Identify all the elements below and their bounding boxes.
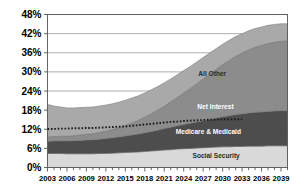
y-tick-label: 18% (21, 105, 41, 116)
stacked-area-chart: 0%6%12%18%24%30%36%42%48% 20032006200920… (0, 0, 305, 194)
y-tick-label: 30% (21, 66, 41, 77)
y-tick-label: 36% (21, 47, 41, 58)
x-tick-label: 2033 (234, 174, 251, 183)
x-tick-label: 2003 (39, 174, 56, 183)
x-tick-label: 2015 (117, 174, 135, 183)
x-tick-label: 2009 (78, 174, 95, 183)
series-label-all-other: All Other (198, 70, 226, 77)
series-label-net-interest: Net Interest (197, 103, 234, 110)
x-tick-label: 2027 (195, 174, 212, 183)
y-tick-label: 48% (21, 9, 41, 20)
y-tick-label: 0% (27, 162, 42, 173)
chart-canvas: 0%6%12%18%24%30%36%42%48% 20032006200920… (0, 0, 305, 194)
y-tick-label: 12% (21, 124, 41, 135)
x-tick-label: 2018 (136, 174, 153, 183)
x-tick-label: 2012 (97, 174, 114, 183)
x-tick-label: 2030 (214, 174, 231, 183)
x-tick-label: 2024 (175, 174, 193, 183)
y-tick-label: 6% (27, 143, 42, 154)
x-tick-label: 2006 (59, 174, 76, 183)
series-label-social-security: Social Security (193, 152, 241, 160)
x-tick-label: 2021 (156, 174, 174, 183)
y-tick-label: 24% (21, 86, 41, 97)
y-tick-label: 42% (21, 28, 41, 39)
series-label-medicare-medicaid: Medicare & Medicaid (176, 128, 241, 135)
x-tick-label: 2036 (253, 174, 270, 183)
x-tick-label: 2039 (273, 174, 290, 183)
